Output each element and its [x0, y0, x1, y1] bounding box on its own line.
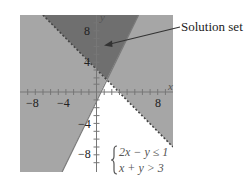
- tick-label-y-8: 8: [84, 24, 90, 39]
- tick-label-y-4: 4: [84, 55, 90, 70]
- tick-label-y-neg4: −4: [78, 117, 91, 132]
- tick-label-x-neg8: −8: [26, 96, 39, 111]
- inequality-1: 2x − y ≤ 1: [119, 145, 168, 159]
- tick-label-y-neg8: −8: [78, 147, 91, 162]
- annotation-label: Solution set: [181, 19, 243, 35]
- tick-label-x-neg4: −4: [57, 96, 70, 111]
- inequality-2: x + y > 3: [119, 161, 164, 175]
- x-axis-label: x: [168, 80, 173, 92]
- y-axis-label: y: [100, 11, 105, 23]
- tick-label-x-8: 8: [155, 96, 161, 111]
